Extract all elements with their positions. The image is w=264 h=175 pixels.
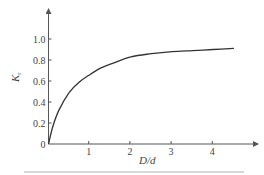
chart: 00.20.40.60.81.0 1234 D/d Kr [0, 0, 264, 175]
y-tick-label: 0 [41, 139, 46, 150]
y-tick-label: 0.4 [33, 97, 46, 108]
y-tick-label: 1.0 [33, 34, 46, 45]
figure-caption-cropped [24, 168, 244, 175]
y-tick-label: 0.8 [33, 55, 46, 66]
x-tick-label: 3 [169, 146, 174, 157]
x-axis-label: D/d [138, 154, 156, 166]
y-axis-label: Kr [9, 72, 23, 83]
y-tick-label: 0.6 [33, 76, 46, 87]
data-curve [49, 48, 234, 144]
y-axis-label-sub: r [15, 72, 23, 75]
y-tick-label: 0.2 [33, 118, 46, 129]
x-tick-label: 2 [127, 146, 132, 157]
x-tick-label: 1 [86, 146, 91, 157]
x-tick-label: 4 [210, 146, 215, 157]
